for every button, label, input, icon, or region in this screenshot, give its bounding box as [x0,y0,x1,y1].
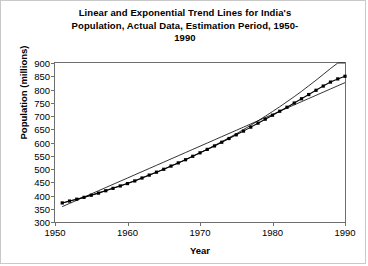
x-tick-mark-1990 [345,222,346,226]
data-point-marker [256,122,259,125]
data-point-marker [314,89,317,92]
data-point-marker [307,93,310,96]
y-axis-label: Population (millions) [18,23,29,163]
x-tick-mark-1980 [273,222,274,226]
series-line-actual-data [62,76,345,203]
series-line-exponential-trend-line [62,63,345,203]
x-axis-label: Year [54,245,346,256]
data-point-marker [300,97,303,100]
x-tick-mark-1950 [55,222,56,226]
series-line-linear-trend-line [62,83,345,207]
chart-canvas [55,63,345,222]
chart-title-line-2: Population, Actual Data, Estimation Peri… [45,20,325,33]
chart-figure: Linear and Exponential Trend Lines for I… [0,0,366,264]
chart-title-line-1: Linear and Exponential Trend Lines for I… [45,7,325,20]
data-point-marker [343,75,346,78]
x-tick-mark-1970 [200,222,201,226]
plot-area: 300350400450500550600650700750800850900 … [54,62,346,223]
data-point-marker [336,77,339,80]
chart-title: Linear and Exponential Trend Lines for I… [45,7,325,45]
chart-title-line-3: 1990 [45,32,325,45]
x-tick-mark-1960 [128,222,129,226]
data-point-marker [329,80,332,83]
data-point-marker [322,84,325,87]
